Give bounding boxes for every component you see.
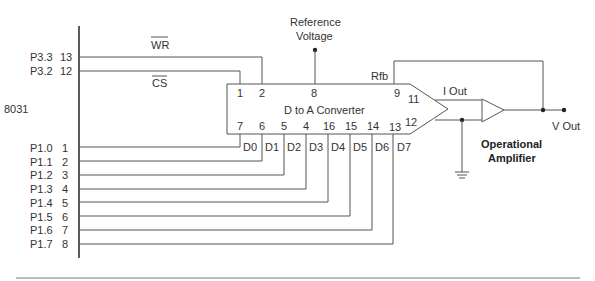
- pin-number: 3: [62, 169, 68, 181]
- data-label-d5: D5: [353, 141, 367, 153]
- pin-number: 8: [62, 238, 68, 250]
- data-label-d7: D7: [397, 141, 411, 153]
- reference-label-line1: Reference: [290, 16, 341, 28]
- dac-pin-16: 16: [323, 120, 335, 132]
- dac-pin-2: 2: [259, 87, 265, 99]
- dac-pin-1: 1: [237, 87, 243, 99]
- dac-pin-14: 14: [367, 120, 379, 132]
- dac-interface-diagram: 8031 P3.3 13 P3.2 12 WR CS P1.0 1 P1.1 2…: [0, 0, 595, 281]
- pin-number: 7: [62, 224, 68, 236]
- dac-pin-5: 5: [281, 120, 287, 132]
- port-label-p1-0: P1.0: [30, 142, 53, 154]
- iout-label: I Out: [443, 85, 467, 97]
- opamp-label-line1: Operational: [481, 138, 542, 150]
- dac-pin-8: 8: [311, 87, 317, 99]
- pin-number: 5: [62, 197, 68, 209]
- reference-label-line2: Voltage: [296, 30, 333, 42]
- port-label-p1-3: P1.3: [30, 183, 53, 195]
- opamp-label-line2: Amplifier: [488, 152, 536, 164]
- data-bus-wires: [79, 134, 393, 244]
- opamp-symbol: [482, 99, 504, 122]
- cs-signal-label: CS: [152, 77, 167, 89]
- dac-pin-7: 7: [237, 120, 243, 132]
- data-label-d2: D2: [287, 141, 301, 153]
- port-label-p1-6: P1.6: [30, 224, 53, 236]
- wire-d0: [79, 134, 240, 147]
- port-label-p1-2: P1.2: [30, 169, 53, 181]
- dac-pin-13: 13: [389, 121, 401, 133]
- pin-number-13: 13: [60, 51, 72, 63]
- dac-pin-4: 4: [303, 120, 309, 132]
- port-label-p1-7: P1.7: [30, 238, 53, 250]
- dac-pin-9: 9: [394, 87, 400, 99]
- mcu-label: 8031: [4, 103, 28, 115]
- feedback-node-dot: [541, 108, 545, 112]
- data-label-d3: D3: [309, 141, 323, 153]
- port-label-p3-3: P3.3: [30, 51, 53, 63]
- vout-terminal-dot: [562, 108, 566, 112]
- pin-number: 6: [62, 211, 68, 223]
- pin-number-12: 12: [60, 65, 72, 77]
- wr-signal-label: WR: [151, 39, 169, 51]
- rfb-label: Rfb: [371, 70, 388, 82]
- dac-label: D to A Converter: [284, 104, 365, 116]
- port-label-p1-4: P1.4: [30, 197, 53, 209]
- data-label-d6: D6: [375, 141, 389, 153]
- ground-icon: [455, 172, 469, 178]
- dac-pin-15: 15: [345, 120, 357, 132]
- port-label-p3-2: P3.2: [30, 65, 53, 77]
- pin-number: 4: [62, 183, 68, 195]
- data-pin-labels: P1.0 1 P1.1 2 P1.2 3 P1.3 4 P1.4 5 P1.5 …: [30, 142, 68, 250]
- port-label-p1-5: P1.5: [30, 211, 53, 223]
- data-label-d1: D1: [265, 141, 279, 153]
- port-label-p1-1: P1.1: [30, 156, 53, 168]
- data-label-d4: D4: [331, 141, 345, 153]
- data-label-d0: D0: [243, 141, 257, 153]
- pin-number: 2: [62, 156, 68, 168]
- dac-pin-6: 6: [259, 120, 265, 132]
- pin-number: 1: [62, 142, 68, 154]
- dac-pin-12: 12: [405, 116, 417, 128]
- dac-pin-11: 11: [408, 93, 419, 105]
- vout-label: V Out: [552, 120, 580, 132]
